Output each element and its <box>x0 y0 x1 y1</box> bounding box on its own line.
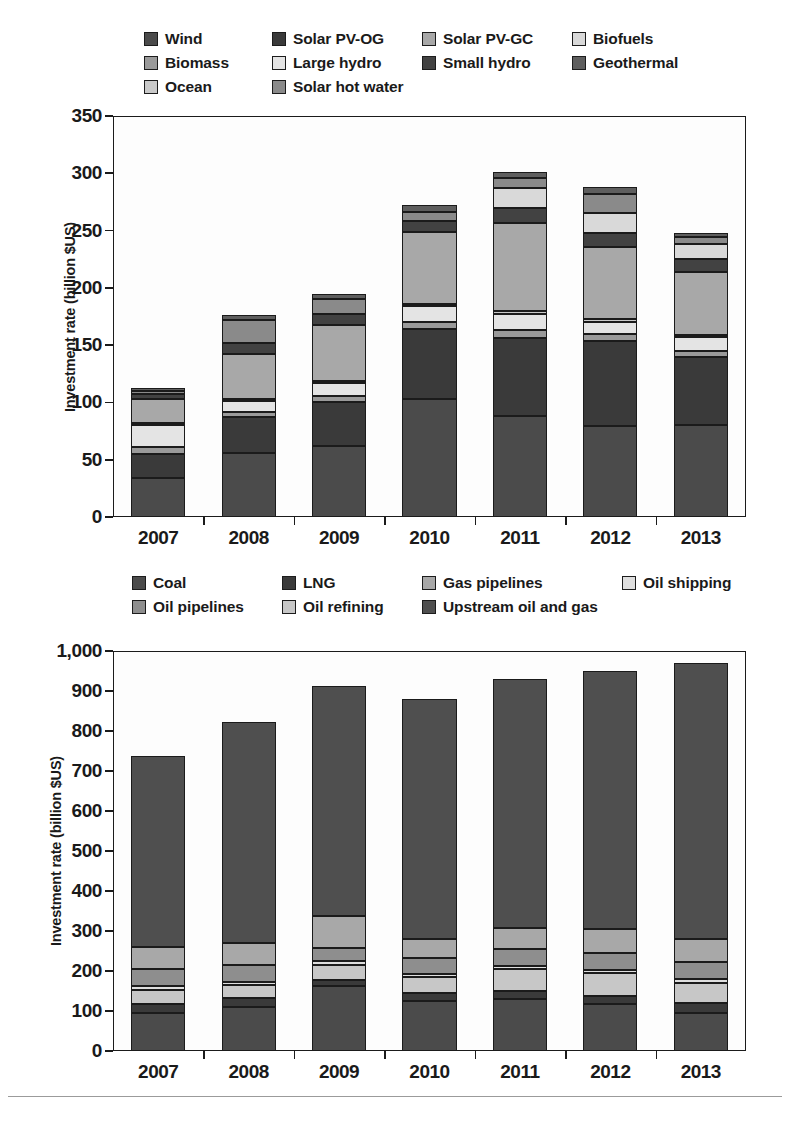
y-tick-label: 900 <box>71 680 102 702</box>
legend-label: Solar hot water <box>293 79 403 95</box>
bar-segment-small-hydro <box>493 208 547 223</box>
legend-swatch-icon <box>144 32 158 46</box>
bar-segment-solar-pv-gc <box>131 399 185 423</box>
x-tick-mark <box>565 1051 567 1059</box>
x-tick-label-2008: 2008 <box>209 1061 289 1083</box>
bar-segment-small-hydro <box>583 233 637 247</box>
x-tick-mark <box>384 1051 386 1059</box>
y-tick-label: 250 <box>71 220 102 242</box>
bar-segment-upstream-oil-and-gas <box>222 722 276 943</box>
bar-segment-lng <box>222 998 276 1007</box>
bar-segment-large-hydro <box>131 425 185 447</box>
chart-fossil-investment: Investment rate (billion $US) 0100200300… <box>0 645 790 1095</box>
bar-2012 <box>583 116 637 517</box>
legend-swatch-icon <box>622 576 636 590</box>
bar-2007 <box>131 116 185 517</box>
bar-segment-ocean <box>674 335 728 337</box>
y-tick-mark <box>105 1050 113 1052</box>
bar-segment-solar-pv-og <box>493 338 547 416</box>
legend-swatch-icon <box>132 576 146 590</box>
x-tick-mark <box>203 1051 205 1059</box>
legend-swatch-icon <box>422 56 436 70</box>
bar-segment-biomass <box>674 351 728 357</box>
y-tick-label: 600 <box>71 800 102 822</box>
legend-swatch-icon <box>422 600 436 614</box>
bar-segment-oil-shipping <box>674 979 728 983</box>
bar-segment-oil-pipelines <box>674 962 728 979</box>
bar-segment-oil-refining <box>402 977 456 993</box>
bar-segment-solar-pv-og <box>674 357 728 426</box>
bar-segment-geothermal <box>493 172 547 178</box>
legend-swatch-icon <box>132 600 146 614</box>
x-tick-label-2008: 2008 <box>209 527 289 549</box>
bar-segment-coal <box>583 1004 637 1051</box>
legend-item-oil-pipelines: Oil pipelines <box>132 596 282 618</box>
bar-segment-ocean <box>131 423 185 425</box>
y-tick-mark <box>105 730 113 732</box>
legend-label: Solar PV-OG <box>293 31 384 47</box>
x-tick-mark <box>475 1051 477 1059</box>
y-tick-mark <box>105 970 113 972</box>
legend-label: Oil shipping <box>643 575 731 591</box>
bar-segment-biomass <box>583 334 637 341</box>
bar-segment-biomass <box>131 447 185 454</box>
legend-fossil-fuels: CoalLNGGas pipelinesOil shippingOil pipe… <box>132 572 790 618</box>
y-tick-label: 0 <box>92 1040 102 1062</box>
y-tick-label: 700 <box>71 760 102 782</box>
bar-segment-oil-refining <box>674 983 728 1003</box>
legend-label: Coal <box>153 575 186 591</box>
bar-segment-oil-shipping <box>583 970 637 974</box>
legend-label: Oil pipelines <box>153 599 244 615</box>
legend-label: Small hydro <box>443 55 531 71</box>
bar-segment-lng <box>674 1003 728 1013</box>
bar-segment-oil-shipping <box>131 986 185 990</box>
bar-segment-solar-pv-og <box>131 454 185 478</box>
y-tick-label: 300 <box>71 920 102 942</box>
legend-item-biofuels: Biofuels <box>572 28 722 50</box>
bar-segment-small-hydro <box>674 259 728 272</box>
x-tick-label-2009: 2009 <box>299 1061 379 1083</box>
bar-segment-biofuels <box>674 244 728 259</box>
legend-item-ocean: Ocean <box>144 76 272 98</box>
x-tick-label-2009: 2009 <box>299 527 379 549</box>
bar-2011 <box>493 651 547 1051</box>
bar-segment-oil-pipelines <box>402 958 456 974</box>
x-tick-mark <box>294 1051 296 1059</box>
bar-segment-ocean <box>222 399 276 401</box>
legend-item-small-hydro: Small hydro <box>422 52 572 74</box>
bar-segment-solar-pv-gc <box>222 354 276 399</box>
legend-label: Solar PV-GC <box>443 31 533 47</box>
legend-swatch-icon <box>272 80 286 94</box>
bar-segment-lng <box>583 996 637 1004</box>
bar-2010 <box>402 116 456 517</box>
bar-segment-solar-pv-og <box>402 329 456 399</box>
bar-segment-upstream-oil-and-gas <box>131 756 185 947</box>
bar-segment-oil-refining <box>222 985 276 998</box>
bar-segment-solar-pv-og <box>312 402 366 446</box>
legend-label: Gas pipelines <box>443 575 543 591</box>
bar-segment-solar-pv-og <box>222 417 276 453</box>
y-tick-label: 150 <box>71 334 102 356</box>
bar-segment-solar-hot-water <box>222 320 276 343</box>
legend-item-geothermal: Geothermal <box>572 52 722 74</box>
y-tick-mark <box>105 930 113 932</box>
legend-item-gas-pipelines: Gas pipelines <box>422 572 622 594</box>
y-tick-mark <box>105 650 113 652</box>
bar-2009 <box>312 651 366 1051</box>
bar-segment-wind <box>312 446 366 517</box>
bar-segment-geothermal <box>402 205 456 212</box>
bar-2009 <box>312 116 366 517</box>
bar-segment-solar-pv-gc <box>402 232 456 304</box>
legend-swatch-icon <box>572 32 586 46</box>
legend-label: LNG <box>303 575 335 591</box>
bar-segment-gas-pipelines <box>131 947 185 969</box>
bar-segment-oil-shipping <box>493 966 547 970</box>
bar-segment-solar-pv-gc <box>493 223 547 311</box>
legend-label: Biofuels <box>593 31 653 47</box>
bar-segment-wind <box>493 416 547 517</box>
bar-segment-oil-pipelines <box>493 949 547 965</box>
bar-segment-solar-hot-water <box>402 212 456 221</box>
bar-segment-biomass <box>402 322 456 329</box>
y-tick-label: 1,000 <box>56 640 102 662</box>
y-tick-label: 400 <box>71 880 102 902</box>
